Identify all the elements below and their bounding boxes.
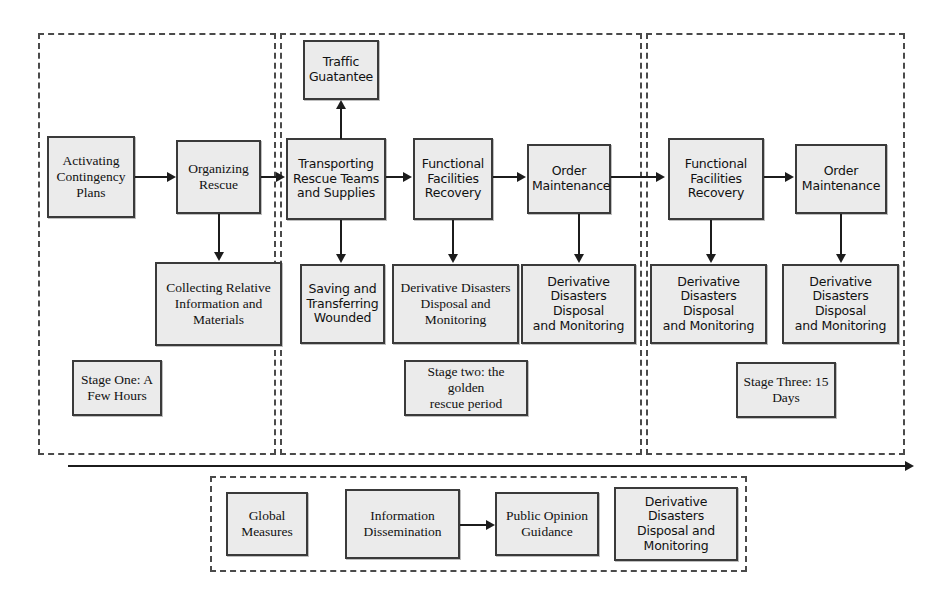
connector-transporting-to-traffic bbox=[340, 109, 342, 139]
arrowhead-icon bbox=[403, 172, 412, 182]
connector-functional-s3-to-order-s3 bbox=[764, 176, 785, 178]
connector-transporting-to-functional-s2 bbox=[386, 176, 403, 178]
stage-label-text: Stage two: the golden rescue period bbox=[409, 364, 523, 412]
arrowhead-icon bbox=[167, 172, 176, 182]
stage-one-label: Stage One: A Few Hours bbox=[72, 360, 162, 416]
node-derivative-disasters-stage-three-a[interactable]: Derivative Disasters Disposal and Monito… bbox=[650, 264, 767, 344]
node-label: Activating Contingency Plans bbox=[52, 153, 130, 201]
node-label: Information Dissemination bbox=[350, 508, 455, 540]
arrowhead-icon bbox=[706, 254, 716, 263]
node-saving-transferring-wounded[interactable]: Saving and Transferring Wounded bbox=[300, 264, 385, 344]
arrowhead-icon bbox=[448, 254, 458, 263]
arrowhead-icon bbox=[836, 254, 846, 263]
node-transporting-rescue-teams[interactable]: Transporting Rescue Teams and Supplies bbox=[286, 138, 386, 220]
node-label: Order Maintenance bbox=[532, 164, 606, 194]
arrowhead-icon bbox=[656, 172, 665, 182]
node-label: Collecting Relative Information and Mate… bbox=[160, 280, 277, 328]
node-derivative-disasters-global[interactable]: Derivative Disasters Disposal and Monito… bbox=[614, 487, 738, 561]
connector-transporting-to-saving bbox=[340, 220, 342, 255]
arrowhead-icon bbox=[214, 252, 224, 261]
arrowhead-icon bbox=[486, 520, 495, 530]
arrowhead-icon bbox=[336, 100, 346, 109]
arrowhead-icon bbox=[517, 172, 526, 182]
node-organizing-rescue[interactable]: Organizing Rescue bbox=[176, 140, 261, 214]
node-functional-facilities-recovery-stage-three[interactable]: Functional Facilities Recovery bbox=[668, 138, 764, 220]
connector-functional-s2-to-order-s2 bbox=[493, 176, 517, 178]
node-label: Derivative Disasters Disposal and Monito… bbox=[397, 280, 514, 328]
connector-activating-to-organizing bbox=[135, 176, 167, 178]
node-collecting-relative-information[interactable]: Collecting Relative Information and Mate… bbox=[155, 262, 282, 346]
stage-label-text: Stage One: A Few Hours bbox=[77, 372, 157, 404]
node-label: Derivative Disasters Disposal and Monito… bbox=[619, 495, 733, 554]
node-functional-facilities-recovery-stage-two[interactable]: Functional Facilities Recovery bbox=[413, 138, 493, 220]
node-label: Functional Facilities Recovery bbox=[418, 157, 488, 201]
timeline-arrowhead-icon bbox=[905, 461, 914, 471]
arrowhead-icon bbox=[336, 254, 346, 263]
node-label: Transporting Rescue Teams and Supplies bbox=[291, 157, 381, 201]
connector-order-s2-to-derivative bbox=[578, 214, 580, 255]
diagram-canvas: Activating Contingency Plans Organizing … bbox=[0, 0, 940, 600]
node-order-maintenance-stage-three[interactable]: Order Maintenance bbox=[795, 144, 887, 214]
stage-two-label: Stage two: the golden rescue period bbox=[404, 360, 528, 416]
node-label: Derivative Disasters Disposal and Monito… bbox=[655, 275, 762, 334]
node-label: Functional Facilities Recovery bbox=[673, 157, 759, 201]
node-label: Order Maintenance bbox=[800, 164, 882, 194]
node-label: Traffic Guatantee bbox=[308, 55, 374, 85]
connector-functional-s3-to-derivative bbox=[710, 220, 712, 255]
connector-order-s2-to-functional-s3 bbox=[611, 176, 656, 178]
node-label: Public Opinion Guidance bbox=[500, 508, 594, 540]
node-label: Derivative Disasters Disposal and Monito… bbox=[787, 275, 894, 334]
node-traffic-guarantee[interactable]: Traffic Guatantee bbox=[303, 40, 379, 100]
connector-information-to-public-opinion bbox=[460, 524, 486, 526]
node-label: Organizing Rescue bbox=[181, 161, 256, 193]
node-order-maintenance-stage-two[interactable]: Order Maintenance bbox=[527, 144, 611, 214]
node-label: Saving and Transferring Wounded bbox=[305, 282, 380, 326]
connector-order-s3-to-derivative bbox=[840, 214, 842, 255]
node-derivative-disasters-stage-three-b[interactable]: Derivative Disasters Disposal and Monito… bbox=[782, 264, 899, 344]
node-public-opinion-guidance[interactable]: Public Opinion Guidance bbox=[495, 492, 599, 556]
connector-functional-s2-to-derivative bbox=[452, 220, 454, 255]
node-label: Global Measures bbox=[231, 508, 303, 540]
node-derivative-disasters-stage-two-b[interactable]: Derivative Disasters Disposal and Monito… bbox=[521, 264, 636, 344]
arrowhead-icon bbox=[785, 172, 794, 182]
node-activating-contingency-plans[interactable]: Activating Contingency Plans bbox=[47, 136, 135, 218]
node-information-dissemination[interactable]: Information Dissemination bbox=[345, 489, 460, 559]
stage-label-text: Stage Three: 15 Days bbox=[741, 374, 831, 406]
arrowhead-icon bbox=[574, 254, 584, 263]
arrowhead-icon bbox=[276, 172, 285, 182]
node-derivative-disasters-stage-two-a[interactable]: Derivative Disasters Disposal and Monito… bbox=[392, 264, 519, 344]
node-global-measures[interactable]: Global Measures bbox=[226, 492, 308, 556]
stage-three-label: Stage Three: 15 Days bbox=[736, 362, 836, 418]
node-label: Derivative Disasters Disposal and Monito… bbox=[526, 275, 631, 334]
timeline-axis bbox=[68, 465, 908, 467]
connector-organizing-to-collecting bbox=[218, 214, 220, 253]
